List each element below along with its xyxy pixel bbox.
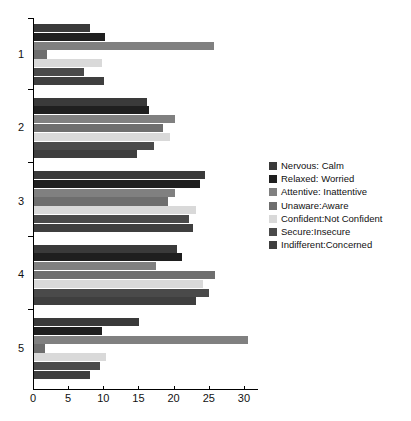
bar-group1-nervous-calm — [34, 24, 90, 32]
legend-swatch-icon — [269, 162, 277, 170]
bar-group2-confident-not-confident — [34, 133, 170, 141]
y-tick-label-1: 1 — [6, 49, 24, 60]
bar-group2-attentive-inattentive — [34, 115, 175, 123]
bar-group5-relaxed-worried — [34, 327, 102, 335]
plot-area: 12345 051015202530 — [0, 0, 265, 400]
legend-swatch-icon — [269, 175, 277, 183]
y-tick-mark-2 — [28, 89, 34, 90]
grouped-bar-chart: 12345 051015202530 Nervous: CalmRelaxed:… — [0, 0, 411, 421]
x-tick-label-10: 10 — [91, 392, 115, 404]
legend-swatch-icon — [269, 188, 277, 196]
bar-group2-relaxed-worried — [34, 106, 149, 114]
legend-item-label: Attentive: Inattentive — [281, 186, 367, 198]
x-tick-label-30: 30 — [232, 392, 256, 404]
bar-group1-secure-insecure — [34, 68, 84, 76]
y-tick-label-4: 4 — [6, 269, 24, 280]
legend-item-confident-not-confident: Confident:Not Confident — [269, 213, 409, 226]
x-tick-label-25: 25 — [197, 392, 221, 404]
legend-item-unaware-aware: Unaware:Aware — [269, 200, 409, 213]
y-tick-mark-5 — [28, 309, 34, 310]
x-tick-label-20: 20 — [162, 392, 186, 404]
legend-item-label: Confident:Not Confident — [281, 213, 382, 225]
bar-group5-unaware-aware — [34, 344, 45, 352]
y-tick-label-2: 2 — [6, 122, 24, 133]
bar-group2-indifferent-concerned — [34, 150, 137, 158]
bar-group1-confident-not-confident — [34, 59, 102, 67]
legend-item-label: Secure:Insecure — [281, 226, 350, 238]
bar-group5-indifferent-concerned — [34, 371, 90, 379]
bar-group3-relaxed-worried — [34, 180, 200, 188]
bar-group3-indifferent-concerned — [34, 224, 193, 232]
bar-group4-relaxed-worried — [34, 253, 182, 261]
x-tick-label-15: 15 — [126, 392, 150, 404]
bar-group3-unaware-aware — [34, 197, 168, 205]
x-tick-label-0: 0 — [21, 392, 45, 404]
legend: Nervous: CalmRelaxed: WorriedAttentive: … — [269, 160, 409, 252]
x-tick-mark-5 — [68, 386, 69, 390]
legend-item-secure-insecure: Secure:Insecure — [269, 226, 409, 239]
bar-group1-unaware-aware — [34, 50, 47, 58]
legend-swatch-icon — [269, 241, 277, 249]
bar-group1-attentive-inattentive — [34, 42, 214, 50]
legend-item-label: Indifferent:Concerned — [281, 239, 372, 251]
legend-item-indifferent-concerned: Indifferent:Concerned — [269, 239, 409, 252]
legend-item-label: Relaxed: Worried — [281, 173, 354, 185]
bar-group1-indifferent-concerned — [34, 77, 104, 85]
legend-swatch-icon — [269, 215, 277, 223]
x-tick-mark-30 — [244, 386, 245, 390]
y-tick-label-3: 3 — [6, 196, 24, 207]
bar-group4-indifferent-concerned — [34, 297, 196, 305]
y-tick-mark-top — [28, 18, 34, 19]
legend-swatch-icon — [269, 228, 277, 236]
bar-group3-confident-not-confident — [34, 206, 196, 214]
bar-group3-secure-insecure — [34, 215, 189, 223]
bar-group1-relaxed-worried — [34, 33, 105, 41]
x-tick-mark-20 — [174, 386, 175, 390]
bar-group4-confident-not-confident — [34, 280, 203, 288]
bar-group5-confident-not-confident — [34, 353, 106, 361]
legend-item-attentive-inattentive: Attentive: Inattentive — [269, 186, 409, 199]
legend-item-label: Unaware:Aware — [281, 200, 348, 212]
legend-item-label: Nervous: Calm — [281, 160, 344, 172]
x-tick-label-5: 5 — [56, 392, 80, 404]
legend-item-relaxed-worried: Relaxed: Worried — [269, 173, 409, 186]
bar-group3-attentive-inattentive — [34, 189, 175, 197]
bar-group4-nervous-calm — [34, 245, 177, 253]
x-tick-mark-10 — [103, 386, 104, 390]
bar-group4-unaware-aware — [34, 271, 215, 279]
x-axis-line — [33, 389, 258, 390]
bar-group2-secure-insecure — [34, 142, 154, 150]
y-tick-mark-3 — [28, 162, 34, 163]
y-tick-mark-4 — [28, 236, 34, 237]
bar-group4-attentive-inattentive — [34, 262, 156, 270]
bar-group5-secure-insecure — [34, 362, 100, 370]
x-tick-mark-25 — [209, 386, 210, 390]
x-tick-mark-15 — [138, 386, 139, 390]
legend-swatch-icon — [269, 202, 277, 210]
bar-group3-nervous-calm — [34, 171, 205, 179]
bar-group2-nervous-calm — [34, 98, 147, 106]
bar-group5-nervous-calm — [34, 318, 139, 326]
legend-item-nervous-calm: Nervous: Calm — [269, 160, 409, 173]
bar-group4-secure-insecure — [34, 289, 209, 297]
bar-group5-attentive-inattentive — [34, 336, 248, 344]
y-tick-label-5: 5 — [6, 343, 24, 354]
bar-group2-unaware-aware — [34, 124, 163, 132]
